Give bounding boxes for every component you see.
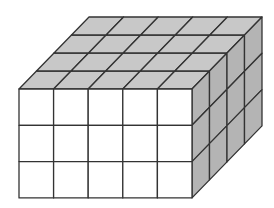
front-cube-face (157, 89, 192, 125)
front-cube-face (157, 162, 192, 198)
front-cube-face (19, 89, 54, 125)
cube-prism-diagram (0, 0, 274, 208)
front-cube-face (54, 162, 89, 198)
front-cube-face (123, 125, 158, 161)
front-cube-face (54, 125, 89, 161)
front-cube-face (123, 89, 158, 125)
front-cube-face (123, 162, 158, 198)
front-cube-face (19, 125, 54, 161)
front-face (19, 89, 192, 198)
front-cube-face (157, 125, 192, 161)
front-cube-face (54, 89, 89, 125)
front-cube-face (19, 162, 54, 198)
front-cube-face (88, 162, 123, 198)
front-cube-face (88, 125, 123, 161)
front-cube-face (88, 89, 123, 125)
